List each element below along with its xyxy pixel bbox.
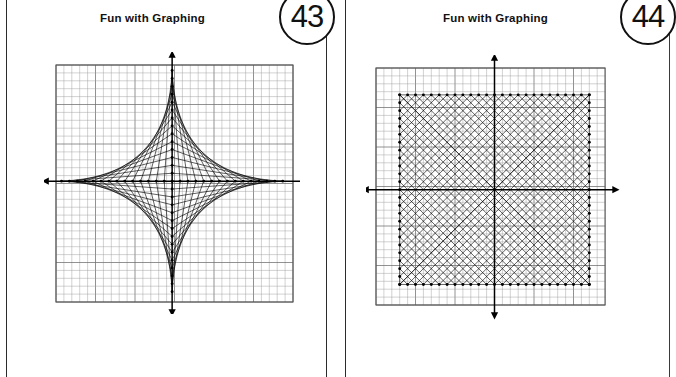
- string-node: [398, 244, 401, 247]
- string-node: [210, 180, 213, 183]
- string-node: [422, 283, 425, 286]
- string-node: [155, 180, 158, 183]
- string-node: [501, 283, 504, 286]
- string-line: [133, 181, 173, 260]
- string-node: [556, 283, 559, 286]
- string-node: [414, 93, 417, 96]
- string-node: [171, 132, 174, 135]
- string-node: [461, 283, 464, 286]
- string-node: [580, 283, 583, 286]
- string-node: [171, 195, 174, 198]
- string-node: [540, 283, 543, 286]
- string-node: [171, 243, 174, 246]
- string-node: [588, 117, 591, 120]
- string-node: [100, 180, 103, 183]
- string-node: [171, 211, 174, 214]
- page-number-badge: 43: [279, 0, 335, 45]
- string-node: [588, 220, 591, 223]
- string-node: [139, 180, 142, 183]
- string-node: [171, 116, 174, 119]
- string-line: [172, 142, 251, 182]
- string-node: [234, 180, 237, 183]
- string-node: [580, 93, 583, 96]
- string-node: [493, 93, 496, 96]
- string-node: [171, 101, 174, 104]
- axis-arrowhead: [366, 186, 369, 193]
- string-node: [398, 133, 401, 136]
- string-line: [172, 181, 251, 221]
- string-node: [171, 172, 174, 175]
- string-node: [525, 93, 528, 96]
- string-node: [588, 109, 591, 112]
- string-node: [123, 180, 126, 183]
- string-node: [588, 275, 591, 278]
- string-node: [493, 283, 496, 286]
- string-node: [588, 133, 591, 136]
- string-node: [556, 93, 559, 96]
- string-node: [398, 172, 401, 175]
- string-node: [398, 101, 401, 104]
- string-node: [398, 165, 401, 168]
- string-node: [509, 93, 512, 96]
- string-node: [548, 283, 551, 286]
- string-node: [517, 283, 520, 286]
- string-node: [461, 93, 464, 96]
- string-node: [525, 283, 528, 286]
- string-node: [446, 283, 449, 286]
- string-node: [398, 157, 401, 160]
- string-node: [398, 228, 401, 231]
- string-node: [186, 180, 189, 183]
- string-line: [172, 181, 235, 236]
- string-node: [588, 157, 591, 160]
- string-node: [398, 149, 401, 152]
- string-node: [194, 180, 197, 183]
- string-node: [147, 180, 150, 183]
- string-node: [398, 212, 401, 215]
- string-node: [171, 124, 174, 127]
- axis-arrowhead: [169, 52, 176, 58]
- string-node: [68, 180, 71, 183]
- string-node: [588, 165, 591, 168]
- string-node: [398, 220, 401, 223]
- string-node: [171, 93, 174, 96]
- string-node: [588, 204, 591, 207]
- axis-arrowhead: [491, 312, 498, 319]
- string-node: [171, 251, 174, 254]
- string-node: [171, 148, 174, 151]
- string-node: [509, 283, 512, 286]
- page-title: Fun with Graphing: [334, 12, 657, 24]
- string-node: [398, 251, 401, 254]
- string-node: [485, 283, 488, 286]
- string-node: [273, 180, 276, 183]
- string-node: [588, 196, 591, 199]
- string-node: [398, 109, 401, 112]
- axis-arrowhead: [612, 186, 619, 193]
- string-node: [588, 172, 591, 175]
- string-node: [454, 283, 457, 286]
- string-node: [171, 235, 174, 238]
- string-node: [588, 251, 591, 254]
- string-node: [226, 180, 229, 183]
- string-node: [179, 180, 182, 183]
- string-node: [588, 101, 591, 104]
- string-node: [533, 283, 536, 286]
- string-node: [171, 267, 174, 270]
- string-node: [454, 93, 457, 96]
- string-node: [438, 283, 441, 286]
- string-node: [588, 228, 591, 231]
- string-node: [171, 274, 174, 277]
- string-node: [171, 140, 174, 143]
- string-node: [131, 180, 134, 183]
- string-node: [171, 188, 174, 191]
- string-node: [414, 283, 417, 286]
- string-node: [438, 93, 441, 96]
- string-node: [398, 283, 401, 286]
- axis-arrowhead: [169, 309, 176, 314]
- string-node: [588, 212, 591, 215]
- string-node: [422, 93, 425, 96]
- hyperbola-string-art-figure: [44, 52, 300, 314]
- string-node: [588, 125, 591, 128]
- string-node: [588, 259, 591, 262]
- string-node: [588, 236, 591, 239]
